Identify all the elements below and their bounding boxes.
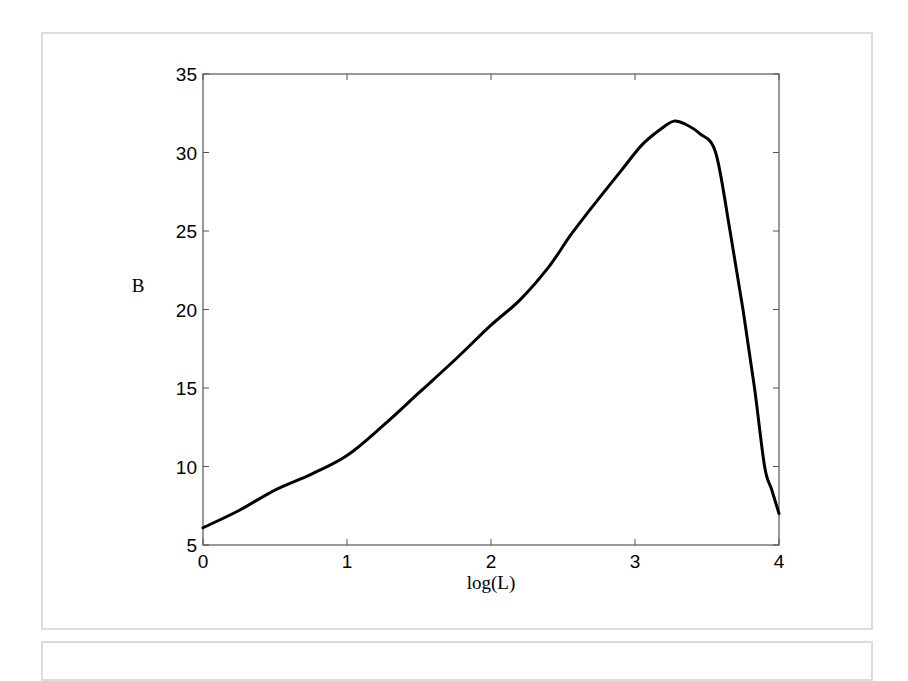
y-tick-label: 20 bbox=[176, 300, 197, 321]
x-axis-label: log(L) bbox=[467, 572, 516, 594]
x-tick-label: 3 bbox=[630, 551, 641, 572]
x-tick-label: 2 bbox=[486, 551, 497, 572]
y-tick-label: 25 bbox=[176, 221, 197, 242]
y-tick-label: 30 bbox=[176, 143, 197, 164]
y-tick-label: 10 bbox=[176, 457, 197, 478]
y-tick-label: 5 bbox=[186, 535, 197, 556]
y-tick-label: 35 bbox=[176, 64, 197, 85]
axis-ticks bbox=[203, 74, 779, 545]
y-axis-label: B bbox=[132, 275, 145, 296]
plot-area bbox=[203, 74, 779, 545]
y-tick-label: 15 bbox=[176, 378, 197, 399]
x-tick-label: 0 bbox=[198, 551, 209, 572]
x-tick-label: 1 bbox=[342, 551, 353, 572]
data-line bbox=[203, 121, 779, 528]
x-tick-label: 4 bbox=[774, 551, 785, 572]
